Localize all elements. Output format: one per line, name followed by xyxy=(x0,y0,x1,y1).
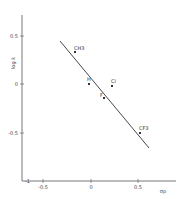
data-point-cl xyxy=(111,85,113,87)
origin-marker: -1 xyxy=(25,178,30,184)
y-tick-label: -0.5 xyxy=(8,130,18,136)
y-tick-label: 0.5 xyxy=(10,33,18,39)
x-tick-label: -0.5 xyxy=(38,184,48,190)
y-tick-label: 0 xyxy=(15,81,18,87)
fit-line xyxy=(60,41,149,148)
x-tick-label: 0.5 xyxy=(134,184,142,190)
chart-svg: 0.5 0 -0.5 log k -0.5 0 0.5 σp -1 CH3 H … xyxy=(0,0,189,199)
y-axis-label: log k xyxy=(10,57,17,69)
point-label-cl: Cl xyxy=(111,78,116,84)
x-axis-label: σp xyxy=(160,188,166,195)
data-point-cf3 xyxy=(139,132,141,134)
point-label-h: H xyxy=(87,76,91,82)
point-label-f: F xyxy=(100,92,103,98)
point-label-cf3: CF3 xyxy=(139,125,149,131)
point-label-ch3: CH3 xyxy=(74,45,84,51)
x-tick-label: 0 xyxy=(89,184,92,190)
data-point-ch3 xyxy=(74,51,76,53)
data-point-h xyxy=(88,83,90,85)
data-point-f xyxy=(103,97,105,99)
